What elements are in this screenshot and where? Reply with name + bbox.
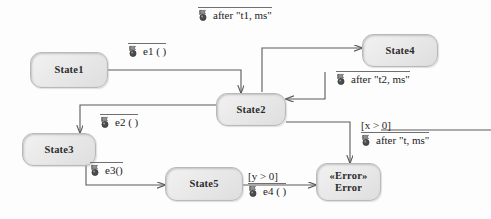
transition-label-e2: e2 ( ) (100, 113, 138, 128)
transition-label-after-t: [x > 0] after "t, ms" (361, 119, 429, 146)
label-rule (361, 132, 429, 133)
transition-event-label: after "t, ms" (376, 135, 429, 146)
state-label: State1 (54, 64, 83, 76)
transition-label-e3: e3() (90, 161, 123, 176)
label-rule (90, 162, 123, 163)
edge-state2-error (286, 122, 350, 163)
state-label: State5 (189, 178, 218, 190)
state-label: State3 (44, 144, 73, 156)
state-node-state4[interactable]: State4 (362, 34, 438, 67)
label-rule (100, 114, 138, 115)
transition-label-after-t2: after "t2, ms" (336, 70, 410, 85)
label-rule (248, 183, 286, 184)
state-node-state2[interactable]: State2 (216, 93, 286, 126)
transition-event-label: e1 ( ) (143, 46, 166, 57)
edge-state1-state2 (108, 70, 241, 93)
event-icon (248, 185, 260, 197)
event-icon (336, 73, 348, 85)
label-rule (336, 71, 410, 72)
event-icon (100, 116, 112, 128)
state-node-state5[interactable]: State5 (165, 167, 243, 201)
transition-event-label: e3() (105, 165, 123, 176)
transition-guard-label: [x > 0] (361, 119, 429, 131)
event-icon (361, 134, 373, 146)
transition-label-e1: e1 ( ) (128, 42, 166, 57)
transition-event-label: e4 ( ) (263, 186, 286, 197)
state-label: Error (335, 182, 362, 194)
event-icon (90, 164, 102, 176)
event-icon (128, 45, 140, 57)
state-label: State2 (236, 104, 265, 116)
event-icon (198, 9, 210, 21)
transition-event-label: after "t1, ms" (213, 10, 272, 21)
transition-label-after-t1: after "t1, ms" (198, 6, 272, 21)
transition-guard-label: [y > 0] (248, 170, 286, 182)
edge-state4-state2 (286, 72, 325, 99)
state-node-error[interactable]: «Error» Error (316, 163, 381, 201)
label-rule (128, 43, 166, 44)
transition-label-e4: [y > 0] e4 ( ) (248, 170, 286, 197)
label-rule (198, 7, 272, 8)
transition-event-label: after "t2, ms" (351, 74, 410, 85)
state-node-state1[interactable]: State1 (30, 52, 108, 88)
state-label: State4 (385, 45, 414, 57)
state-stereotype-label: «Error» (330, 170, 368, 182)
state-diagram-canvas: State1 State2 State3 State4 State5 «Erro… (0, 0, 491, 219)
transition-event-label: e2 ( ) (115, 117, 138, 128)
state-node-state3[interactable]: State3 (22, 133, 96, 166)
